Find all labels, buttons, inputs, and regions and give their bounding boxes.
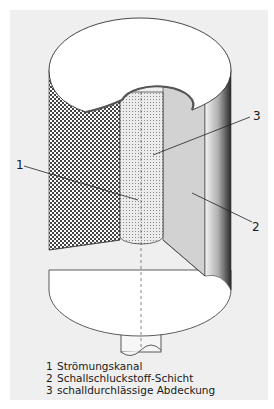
legend-item: 3schalldurchlässige Abdeckung: [46, 384, 215, 396]
callout-label-2: 2: [252, 220, 260, 234]
legend-item: 2Schallschluckstoff-Schicht: [46, 372, 215, 384]
silencer-cutaway-diagram: [0, 0, 274, 409]
absorber-layer-right: [163, 85, 205, 276]
outer-shell: [205, 70, 231, 290]
bottom-disc: [49, 270, 231, 336]
legend: 1Strömungskanal 2Schallschluckstoff-Schi…: [46, 360, 215, 396]
callout-label-3: 3: [253, 109, 261, 123]
callout-label-1: 1: [16, 158, 24, 172]
legend-item: 1Strömungskanal: [46, 360, 215, 372]
